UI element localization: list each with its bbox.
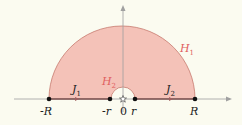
y-axis-arrow-icon <box>121 5 126 11</box>
point-minus-r <box>108 97 113 102</box>
label-j2: J2 <box>166 84 175 98</box>
label-minus-r: -r <box>102 106 111 117</box>
label-origin: 0 <box>120 106 127 117</box>
label-R: R <box>190 106 198 117</box>
point-minus-R <box>47 97 52 102</box>
x-axis-arrow-icon <box>226 97 232 102</box>
label-r: r <box>131 106 136 117</box>
label-h1: H1 <box>180 43 194 57</box>
point-r <box>133 97 138 102</box>
label-h2: H2 <box>102 76 116 90</box>
label-j1: J1 <box>72 84 81 98</box>
label-minus-R: -R <box>40 106 52 117</box>
point-R <box>193 97 198 102</box>
